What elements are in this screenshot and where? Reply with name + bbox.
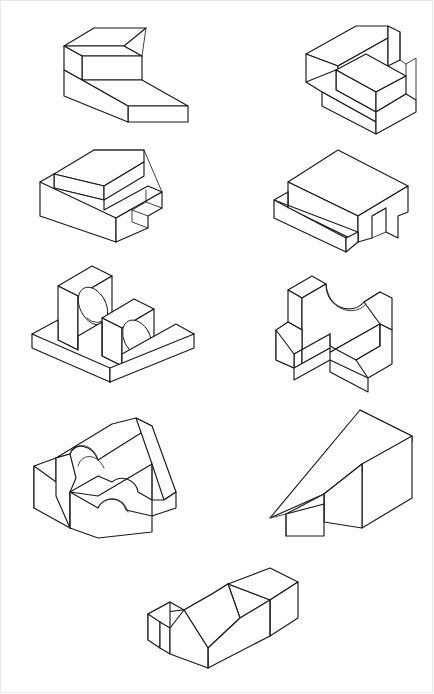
figure-4-block-with-ledge-and-slot — [266, 142, 421, 252]
figure-9-block-angled-top-end-notch — [124, 556, 309, 676]
figure-1-stepped-block-chamfer — [28, 18, 198, 133]
figure-7-angle-block-with-notches — [26, 404, 196, 539]
figure-2-u-block-with-boss — [288, 14, 423, 134]
drawing-sheet — [0, 0, 434, 694]
figure-5-bearing-support-two-lugs — [24, 262, 199, 387]
figure-3-base-with-rib-and-notch — [32, 142, 192, 252]
figure-6-bracket-with-semicircular-cut — [268, 268, 418, 393]
figure-8-wedge-block-stepped-front — [252, 402, 422, 537]
